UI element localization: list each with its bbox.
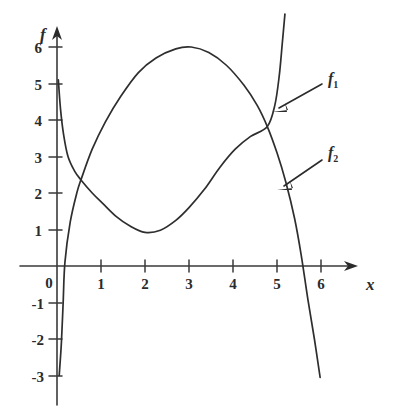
x-tick-label-4: 4 <box>229 276 237 292</box>
y-tick-label-4: 4 <box>35 113 43 129</box>
x-tick-label-5: 5 <box>273 276 281 292</box>
x-tick-label-6: 6 <box>317 276 325 292</box>
y-tick-label-neg3: -3 <box>32 369 45 385</box>
y-tick-label-5: 5 <box>35 77 43 93</box>
x-tick-label-2: 2 <box>141 276 149 292</box>
x-axis-label: x <box>365 275 375 294</box>
y-tick-label-2: 2 <box>35 186 43 202</box>
x-tick-label-3: 3 <box>185 276 193 292</box>
plot-background <box>0 0 394 410</box>
y-tick-label-1: 1 <box>35 223 43 239</box>
curve-label-f1-subscript: 1 <box>333 79 338 90</box>
function-plot-figure: 6 5 4 3 2 1 -1 -2 -3 0 1 2 3 4 5 6 f x f… <box>0 0 394 410</box>
curve-label-f2-subscript: 2 <box>333 153 338 164</box>
y-tick-label-neg2: -2 <box>32 332 45 348</box>
x-tick-label-1: 1 <box>97 276 105 292</box>
y-tick-label-3: 3 <box>35 150 43 166</box>
x-tick-label-0: 0 <box>45 275 53 291</box>
y-tick-label-neg1: -1 <box>32 296 45 312</box>
